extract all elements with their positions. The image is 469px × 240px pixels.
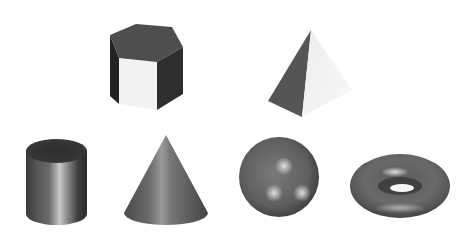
geometric-solids-scene	[0, 0, 469, 240]
pyramid	[268, 30, 352, 117]
torus	[350, 154, 450, 218]
prism-front-face	[119, 58, 157, 110]
torus-highlight-bottom	[374, 203, 426, 213]
cone	[124, 135, 208, 225]
cone-body	[124, 135, 208, 225]
sphere-body	[239, 137, 319, 217]
cylinder-top	[26, 139, 87, 163]
torus-hole	[390, 184, 414, 192]
torus-highlight-top	[381, 167, 409, 177]
sphere	[239, 137, 319, 217]
hexagonal-prism	[110, 24, 183, 110]
sphere-highlight-3	[293, 184, 311, 202]
scene-canvas	[0, 0, 469, 240]
sphere-highlight-1	[275, 157, 293, 175]
sphere-highlight-2	[265, 184, 283, 202]
cylinder	[26, 139, 87, 225]
